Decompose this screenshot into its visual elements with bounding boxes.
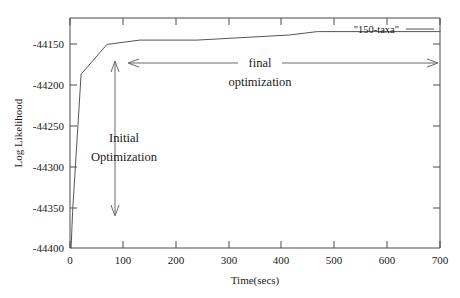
legend: "150-taxa" bbox=[354, 24, 434, 35]
x-tick-label: 200 bbox=[168, 254, 185, 266]
initial-optimization-label-line1: Initial bbox=[109, 131, 139, 145]
final-optimization-label-line2: optimization bbox=[228, 75, 292, 89]
y-tick-labels: -44150 -44200 -44250 -44300 -44350 -4440… bbox=[33, 38, 65, 254]
chart-figure: -44150 -44200 -44250 -44300 -44350 -4440… bbox=[0, 0, 460, 298]
initial-optimization-label-line2: Optimization bbox=[91, 150, 158, 164]
annotation-final-optimization: final optimization bbox=[128, 56, 438, 89]
y-tick-label: -44350 bbox=[33, 202, 65, 214]
x-tick-labels: 0 100 200 300 400 500 600 700 bbox=[67, 254, 449, 266]
x-tick-label: 500 bbox=[326, 254, 343, 266]
y-tick-label: -44150 bbox=[33, 38, 65, 50]
y-tick-label: -44400 bbox=[33, 242, 65, 254]
y-tick-label: -44250 bbox=[33, 120, 65, 132]
annotation-initial-optimization: Initial Optimization bbox=[91, 61, 158, 216]
line-chart: -44150 -44200 -44250 -44300 -44350 -4440… bbox=[0, 0, 460, 298]
x-tick-label: 400 bbox=[273, 254, 290, 266]
x-tick-label: 600 bbox=[379, 254, 396, 266]
final-optimization-label-line1: final bbox=[249, 56, 272, 70]
x-tick-label: 100 bbox=[115, 254, 132, 266]
y-tick-label: -44300 bbox=[33, 161, 65, 173]
legend-label-150-taxa: "150-taxa" bbox=[354, 24, 399, 35]
x-axis-title: Time(secs) bbox=[231, 274, 280, 287]
x-tick-label: 700 bbox=[432, 254, 449, 266]
x-tick-label: 0 bbox=[67, 254, 73, 266]
y-axis-title: Log Likelihood bbox=[12, 98, 24, 167]
x-tick-label: 300 bbox=[221, 254, 238, 266]
y-tick-label: -44200 bbox=[33, 79, 65, 91]
